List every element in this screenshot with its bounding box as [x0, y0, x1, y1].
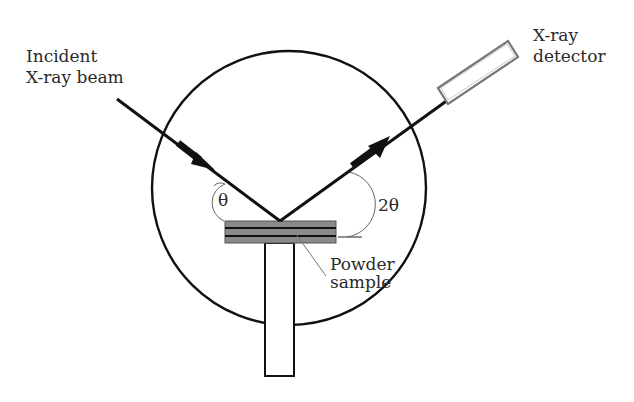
powder-sample-plate — [225, 221, 336, 243]
incident-arrow-icon — [178, 143, 215, 170]
detector-label: X-ray detector — [533, 25, 606, 67]
diffracted-arrow-icon — [352, 136, 390, 166]
x-ray-detector-icon — [438, 41, 518, 104]
xrd-diagram: Incident X-ray beam X-ray detector Powde… — [0, 0, 634, 402]
incident-beam-label: Incident X-ray beam — [26, 46, 124, 88]
two-theta-label: 2θ — [378, 195, 399, 216]
theta-label: θ — [218, 190, 228, 211]
two-theta-arc — [347, 172, 375, 237]
sample-stand — [265, 243, 294, 376]
powder-sample-label: Powder sample — [330, 255, 395, 291]
